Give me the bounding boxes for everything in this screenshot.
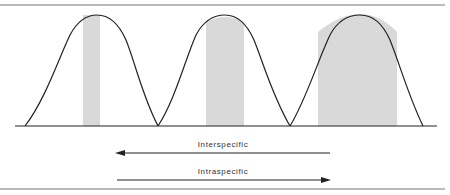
niche-diagram — [0, 0, 450, 195]
interspecific-arrow — [115, 150, 330, 156]
arrowhead-right-icon — [321, 177, 331, 183]
arrowhead-left-icon — [115, 150, 125, 156]
shade-species-1 — [83, 15, 100, 126]
shade-species-2 — [206, 17, 244, 126]
interspecific-label: Interspecific — [198, 140, 248, 149]
shaded-regions — [83, 14, 397, 126]
intraspecific-label: Intraspecific — [198, 167, 248, 176]
intraspecific-arrow — [117, 177, 331, 183]
